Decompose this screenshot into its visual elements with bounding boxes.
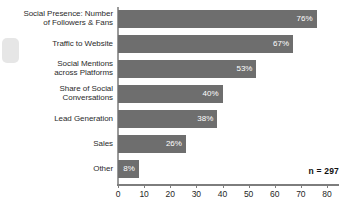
tick-label: 50 [244, 189, 253, 199]
tick-mark [196, 184, 197, 188]
category-label: Social Presence: Numberof Followers & Fa… [0, 9, 113, 27]
category-label: Share of SocialConversations [0, 84, 113, 102]
tick-label: 10 [139, 189, 148, 199]
x-axis-ticks: 01020304050607080 [0, 184, 345, 214]
category-label-line: Share of Social [0, 84, 113, 93]
bar-row: Sales26% [0, 135, 345, 160]
tick-label: 30 [192, 189, 201, 199]
bar-chart: Social Presence: Numberof Followers & Fa… [0, 0, 345, 215]
bar[interactable]: 38% [118, 110, 217, 128]
bar[interactable]: 76% [118, 10, 317, 28]
category-label-line: Traffic to Website [0, 39, 113, 48]
bar-track: 38% [118, 110, 345, 128]
category-label-line: across Platforms [0, 68, 113, 77]
category-label: Traffic to Website [0, 39, 113, 48]
tick-mark [249, 184, 250, 188]
tick-mark [170, 184, 171, 188]
bar-track: 53% [118, 60, 345, 78]
bar-value-label: 53% [236, 64, 252, 74]
bar-value-label: 8% [123, 164, 135, 174]
tick-mark [327, 184, 328, 188]
category-label-line: Lead Generation [0, 114, 113, 123]
bar[interactable]: 40% [118, 85, 223, 103]
bar-row: Social Mentionsacross Platforms53% [0, 60, 345, 85]
category-label-line: Social Presence: Number [0, 9, 113, 18]
tick-label: 60 [270, 189, 279, 199]
bar-track: 26% [118, 135, 345, 153]
bar-value-label: 40% [202, 89, 218, 99]
category-label: Social Mentionsacross Platforms [0, 59, 113, 77]
tick-label: 80 [322, 189, 331, 199]
tick-mark [301, 184, 302, 188]
category-label-line: Sales [0, 139, 113, 148]
category-label-line: of Followers & Fans [0, 18, 113, 27]
bar-row: Share of SocialConversations40% [0, 85, 345, 110]
tick-mark [275, 184, 276, 188]
tick-label: 70 [296, 189, 305, 199]
category-rows: Social Presence: Numberof Followers & Fa… [0, 10, 345, 185]
tick-mark [144, 184, 145, 188]
bar-track: 67% [118, 35, 345, 53]
category-label: Sales [0, 139, 113, 148]
category-label-line: Social Mentions [0, 59, 113, 68]
tick-label: 20 [166, 189, 175, 199]
bar[interactable]: 26% [118, 135, 186, 153]
category-label-line: Other [0, 164, 113, 173]
bar-row: Other8% [0, 160, 345, 185]
bar-track: 76% [118, 10, 345, 28]
tick-label: 40 [218, 189, 227, 199]
bar-value-label: 26% [166, 139, 182, 149]
tick-label: 0 [116, 189, 121, 199]
category-label: Lead Generation [0, 114, 113, 123]
bar-track: 40% [118, 85, 345, 103]
bar-row: Lead Generation38% [0, 110, 345, 135]
sample-size-note: n = 297 [309, 166, 339, 176]
bar-row: Social Presence: Numberof Followers & Fa… [0, 10, 345, 35]
bar-value-label: 67% [273, 39, 289, 49]
bar[interactable]: 8% [118, 160, 139, 178]
bar[interactable]: 53% [118, 60, 256, 78]
bar-value-label: 76% [297, 14, 313, 24]
category-label-line: Conversations [0, 93, 113, 102]
bar-value-label: 38% [197, 114, 213, 124]
tick-mark [118, 184, 119, 188]
bar-row: Traffic to Website67% [0, 35, 345, 60]
category-label: Other [0, 164, 113, 173]
bar[interactable]: 67% [118, 35, 293, 53]
tick-mark [223, 184, 224, 188]
